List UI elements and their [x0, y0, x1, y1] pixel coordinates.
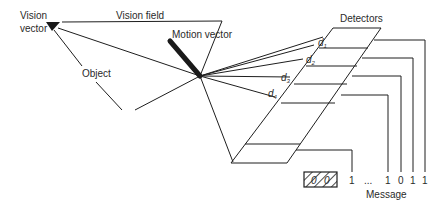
distance-label-d2: d2	[306, 54, 316, 66]
message-bit-1: 1	[349, 175, 355, 186]
ray-d4	[200, 76, 275, 97]
detector-wire-1	[374, 40, 425, 172]
message-label: Message	[366, 189, 407, 200]
detectors-label: Detectors	[340, 13, 383, 24]
vision-field-line	[62, 21, 222, 22]
ray-d3	[200, 76, 290, 77]
vision-vector-label-line2: vector	[20, 23, 48, 34]
hatched-bits-box	[304, 172, 337, 187]
message-bit-2: 1	[385, 175, 391, 186]
vision-vector-icon	[46, 22, 60, 31]
hatched-bit-1: 0	[311, 175, 317, 186]
ray-d1b	[200, 37, 323, 76]
ray-to-lower-left	[135, 76, 200, 110]
hatched-bit-2: 0	[324, 175, 330, 186]
detector-wire-3	[352, 76, 401, 172]
detector-wire-last	[296, 150, 352, 172]
object-label: Object	[82, 68, 111, 79]
distance-label-d4: d4	[268, 88, 278, 100]
distance-label-d1: d1	[318, 37, 327, 49]
ray-to-detector-bottom	[200, 76, 233, 162]
object-line-lower	[96, 82, 122, 110]
motion-vector-label: Motion vector	[172, 29, 233, 40]
vision-field-label: Vision field	[116, 10, 164, 21]
message-bit-ellipsis: ...	[364, 175, 372, 186]
message-bit-5: 1	[422, 175, 428, 186]
object-line-upper	[54, 30, 82, 66]
detector-wire-4	[341, 95, 388, 172]
detector-diagram: Vision vector Vision field Motion vector…	[0, 0, 445, 211]
message-bit-3: 0	[398, 175, 404, 186]
vision-vector-label-line1: Vision	[20, 10, 47, 21]
distance-label-d3: d3	[281, 72, 291, 84]
message-bit-4: 1	[410, 175, 416, 186]
